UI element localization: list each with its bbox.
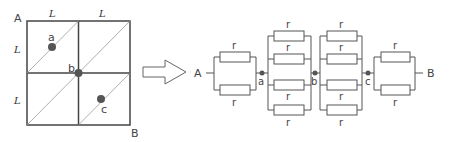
resistor	[274, 105, 304, 115]
grid-side-label-top-right: L	[98, 8, 106, 19]
grid-node-c-dot	[97, 95, 105, 103]
resistor-label: r	[232, 40, 237, 51]
grid-side-label-left-bottom: L	[13, 95, 21, 106]
resistor	[220, 52, 250, 62]
resistor-label: r	[339, 42, 344, 53]
grid-node-b-dot	[75, 69, 83, 77]
grid-node-a-dot	[48, 43, 56, 51]
resistor-label: r	[393, 40, 398, 51]
resistor	[274, 31, 304, 41]
resistor-label: r	[339, 91, 344, 102]
circuit-node-b-dot	[313, 71, 318, 76]
grid-side-label-top-left: L	[48, 8, 56, 19]
grid-side-label-left-top: L	[13, 44, 21, 55]
diagonal-bottom-left	[27, 73, 79, 125]
grid-node-b-label: b	[68, 62, 75, 75]
resistor-label: r	[393, 97, 398, 108]
resistor	[274, 80, 304, 90]
resistor	[220, 85, 250, 95]
diagonal-top-right	[79, 21, 131, 73]
circuit-node-b-label: b	[311, 76, 317, 87]
grid-label-B: B	[131, 127, 139, 140]
resistor-label: r	[286, 91, 291, 102]
diagram-canvas: A B L L L L a b c	[0, 0, 450, 142]
circuit-node-a-label: a	[258, 76, 264, 87]
resistor	[381, 85, 410, 95]
resistor-label: r	[286, 19, 291, 30]
resistor	[327, 54, 357, 64]
circuit-node-c-label: c	[365, 76, 371, 87]
right-arrow-icon	[143, 60, 186, 84]
circuit-terminal-B: B	[427, 67, 435, 80]
grid-label-A: A	[14, 12, 22, 25]
resistor-label: r	[339, 117, 344, 128]
resistor-label: r	[232, 97, 237, 108]
resistor	[327, 31, 357, 41]
circuit-terminal-A: A	[194, 67, 202, 80]
grid-node-c-label: c	[101, 103, 107, 116]
resistor-label: r	[339, 19, 344, 30]
resistor	[381, 52, 410, 62]
resistor	[327, 105, 357, 115]
resistor	[274, 54, 304, 64]
circuit-node-c-dot	[366, 71, 371, 76]
resistor-label: r	[286, 42, 291, 53]
circuit-node-a-dot	[260, 71, 265, 76]
resistor-label: r	[286, 117, 291, 128]
resistor	[327, 80, 357, 90]
grid-node-a-label: a	[48, 31, 55, 44]
